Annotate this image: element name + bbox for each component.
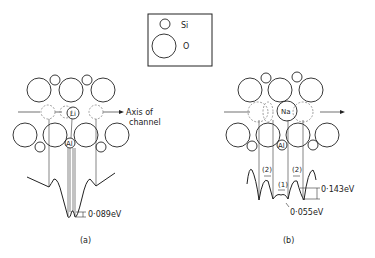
o-atom-icon xyxy=(105,123,129,147)
barrier-high-label: 0·143eV xyxy=(321,185,355,194)
si-atom-icon xyxy=(96,142,106,152)
connector-line xyxy=(71,119,72,138)
legend-si-label: Si xyxy=(181,21,188,30)
o-atom-icon xyxy=(226,123,250,147)
al-label: Al xyxy=(278,142,285,150)
dashed-site-icon xyxy=(41,105,55,119)
well-label: (2) xyxy=(292,166,302,174)
dashed-site-icon xyxy=(248,102,268,122)
o-atom-icon xyxy=(43,123,67,147)
well-label: (2) xyxy=(262,166,272,174)
si-atom-icon xyxy=(261,73,271,83)
si-atom-icon xyxy=(82,75,92,85)
si-atom-icon xyxy=(308,140,318,150)
barrier-pointer xyxy=(286,203,289,207)
o-atom-icon xyxy=(74,123,98,147)
o-legend-icon xyxy=(152,34,176,58)
arrow-head-icon xyxy=(119,110,124,114)
diagram-canvas: Si O Axis of channel Li xyxy=(0,0,375,258)
panel-b: Na Al (2) (1) (2) 0·143eV 0·055eV xyxy=(224,72,355,245)
barrier-label: 0·089eV xyxy=(88,210,122,219)
o-atom-icon xyxy=(59,78,83,102)
o-atom-icon xyxy=(238,78,262,102)
si-atom-icon xyxy=(292,72,302,82)
o-atom-icon xyxy=(91,78,115,102)
o-atom-icon xyxy=(13,123,37,147)
legend-o-label: O xyxy=(183,42,189,51)
panel-a: Axis of channel Li Al 0·089 xyxy=(13,75,161,245)
panel-b-caption: (b) xyxy=(283,236,294,245)
o-atom-icon xyxy=(286,123,310,147)
well-label: (1) xyxy=(278,181,288,189)
dashed-site-icon xyxy=(293,102,313,122)
o-atom-icon xyxy=(256,123,280,147)
al-label: Al xyxy=(66,140,73,148)
o-atom-icon xyxy=(299,78,323,102)
o-atom-icon xyxy=(315,123,339,147)
legend: Si O xyxy=(148,14,212,66)
barrier-low-label: 0·055eV xyxy=(290,208,324,217)
na-label: Na xyxy=(281,108,291,116)
si-atom-icon xyxy=(50,75,60,85)
panel-a-caption: (a) xyxy=(80,236,91,245)
o-atom-icon xyxy=(268,78,292,102)
si-atom-icon xyxy=(247,141,257,151)
o-atom-icon xyxy=(27,78,51,102)
si-legend-icon xyxy=(160,19,170,29)
axis-label: Axis of xyxy=(126,108,153,117)
si-atom-icon xyxy=(35,142,45,152)
li-label: Li xyxy=(70,110,76,118)
axis-label-2: channel xyxy=(129,118,161,127)
dashed-site-icon xyxy=(89,105,103,119)
legend-box xyxy=(148,14,212,66)
arrow-head-icon xyxy=(340,110,345,114)
